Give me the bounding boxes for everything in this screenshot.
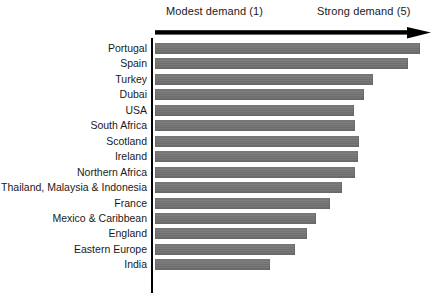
bar-rect: [155, 198, 330, 209]
bar-rect: [155, 89, 364, 100]
bar-rect: [155, 58, 408, 69]
bar-rect: [155, 136, 359, 147]
bar-rect: [155, 105, 354, 116]
bar-category-label: France: [0, 197, 147, 209]
bar-category-label: Northern Africa: [0, 166, 147, 178]
bar-rect: [155, 120, 355, 131]
bar-category-label: Scotland: [0, 135, 147, 147]
axis-annotation-high: Strong demand (5): [317, 5, 410, 17]
bar-category-label: Thailand, Malaysia & Indonesia: [0, 181, 147, 193]
bar-rect: [155, 43, 420, 54]
bar-rect: [155, 213, 316, 224]
bar-row: England: [0, 228, 433, 239]
bar-row: Portugal: [0, 43, 433, 54]
axis-annotation-low: Modest demand (1): [166, 5, 263, 17]
bar-rect: [155, 182, 342, 193]
bar-row: Mexico & Caribbean: [0, 213, 433, 224]
bar-category-label: USA: [0, 104, 147, 116]
bar-rect: [155, 244, 295, 255]
bar-category-label: South Africa: [0, 119, 147, 131]
bar-row: Scotland: [0, 136, 433, 147]
bar-category-label: Turkey: [0, 73, 147, 85]
bar-row: France: [0, 198, 433, 209]
bar-category-label: Spain: [0, 57, 147, 69]
bar-category-label: India: [0, 258, 147, 270]
bar-category-label: Ireland: [0, 150, 147, 162]
bar-row: India: [0, 259, 433, 270]
bar-rect: [155, 228, 307, 239]
bar-row: Spain: [0, 58, 433, 69]
bar-row: Eastern Europe: [0, 244, 433, 255]
bar-category-label: Eastern Europe: [0, 243, 147, 255]
bar-row: Thailand, Malaysia & Indonesia: [0, 182, 433, 193]
bar-row: South Africa: [0, 120, 433, 131]
bar-row: Dubai: [0, 89, 433, 100]
bar-rect: [155, 167, 355, 178]
bar-category-label: England: [0, 227, 147, 239]
bar-row: USA: [0, 105, 433, 116]
bar-row: Turkey: [0, 74, 433, 85]
bar-category-label: Dubai: [0, 88, 147, 100]
bar-rect: [155, 74, 373, 85]
bar-row: Ireland: [0, 151, 433, 162]
bar-chart-figure: Modest demand (1) Strong demand (5) Port…: [0, 0, 433, 298]
bar-category-label: Mexico & Caribbean: [0, 212, 147, 224]
bar-category-label: Portugal: [0, 42, 147, 54]
bar-row: Northern Africa: [0, 167, 433, 178]
bar-rect: [155, 259, 270, 270]
plot-area: PortugalSpainTurkeyDubaiUSASouth AfricaS…: [0, 38, 433, 294]
bar-rect: [155, 151, 358, 162]
